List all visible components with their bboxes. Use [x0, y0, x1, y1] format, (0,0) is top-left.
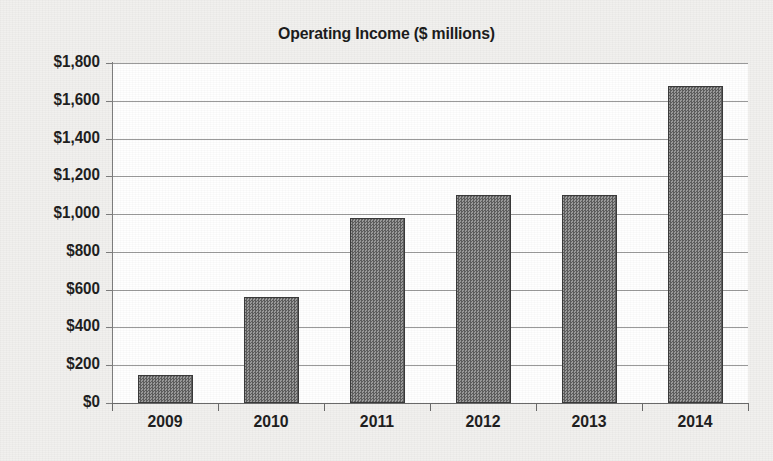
bar-2012	[456, 195, 511, 403]
x-axis-tick	[218, 403, 219, 411]
bar-2011	[350, 218, 405, 403]
x-axis-tick	[112, 403, 113, 411]
bar-2013	[562, 195, 617, 403]
y-axis-line	[112, 62, 113, 404]
x-axis-tick	[430, 403, 431, 411]
bar-2009	[138, 375, 193, 403]
x-axis-tick	[748, 403, 749, 411]
x-axis-tick	[536, 403, 537, 411]
bars-layer	[0, 0, 773, 461]
bar-2010	[244, 297, 299, 403]
bar-2014	[668, 86, 723, 403]
x-axis-tick	[324, 403, 325, 411]
x-axis-tick	[642, 403, 643, 411]
bar-chart: Operating Income ($ millions) $0$200$400…	[0, 0, 773, 461]
